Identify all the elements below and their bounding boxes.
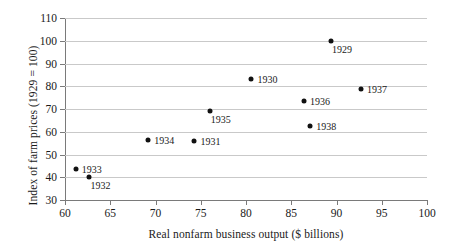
data-point-label-1929: 1929: [332, 44, 352, 55]
x-tick-mark-100: [427, 200, 428, 205]
data-point-1934: [146, 137, 151, 142]
y-tick-label-80: 80: [46, 80, 58, 92]
y-tick-mark-50: [60, 155, 65, 156]
scatter-chart-figure: Index of farm prices (1929 = 100) 304050…: [0, 0, 454, 251]
y-tick-mark-90: [60, 64, 65, 65]
gridline-y-70: [65, 109, 427, 110]
y-tick-mark-80: [60, 86, 65, 87]
y-tick-label-70: 70: [46, 103, 58, 115]
data-point-1932: [87, 175, 92, 180]
x-tick-mark-65: [110, 200, 111, 205]
data-point-1935: [207, 108, 212, 113]
data-point-label-1933: 1933: [82, 163, 102, 174]
x-tick-mark-90: [337, 200, 338, 205]
y-tick-label-90: 90: [46, 58, 58, 70]
data-point-1930: [249, 77, 254, 82]
data-point-1938: [308, 123, 313, 128]
x-tick-mark-60: [65, 200, 66, 205]
data-point-1937: [358, 86, 363, 91]
x-tick-mark-95: [382, 200, 383, 205]
y-tick-mark-70: [60, 109, 65, 110]
x-tick-label-60: 60: [59, 207, 71, 219]
y-tick-label-50: 50: [46, 149, 58, 161]
plot-area: 30405060708090100110 6065707580859095100…: [65, 18, 427, 200]
x-tick-mark-75: [201, 200, 202, 205]
gridline-y-60: [65, 132, 427, 133]
y-tick-label-100: 100: [40, 35, 57, 47]
gridline-y-50: [65, 155, 427, 156]
data-point-1931: [192, 139, 197, 144]
data-point-label-1937: 1937: [367, 83, 387, 94]
y-tick-mark-100: [60, 41, 65, 42]
y-tick-label-60: 60: [46, 126, 58, 138]
y-tick-mark-40: [60, 177, 65, 178]
data-point-label-1932: 1932: [90, 180, 110, 191]
x-tick-label-100: 100: [418, 207, 435, 219]
gridline-y-40: [65, 177, 427, 178]
data-point-label-1931: 1931: [200, 136, 220, 147]
x-tick-label-70: 70: [150, 207, 162, 219]
data-point-label-1938: 1938: [316, 120, 336, 131]
y-tick-mark-110: [60, 18, 65, 19]
x-tick-mark-70: [156, 200, 157, 205]
x-tick-label-80: 80: [240, 207, 252, 219]
x-tick-label-85: 85: [286, 207, 298, 219]
data-point-label-1930: 1930: [257, 74, 277, 85]
gridline-y-100: [65, 41, 427, 42]
y-tick-mark-60: [60, 132, 65, 133]
x-tick-label-65: 65: [105, 207, 117, 219]
data-point-label-1935: 1935: [211, 114, 231, 125]
data-point-1933: [73, 166, 78, 171]
data-point-1929: [329, 38, 334, 43]
x-tick-mark-80: [246, 200, 247, 205]
x-tick-label-90: 90: [331, 207, 343, 219]
y-tick-label-40: 40: [46, 171, 58, 183]
y-tick-label-110: 110: [40, 12, 57, 24]
x-tick-label-95: 95: [376, 207, 388, 219]
gridline-y-110: [65, 18, 427, 19]
x-tick-label-75: 75: [195, 207, 207, 219]
x-tick-mark-85: [291, 200, 292, 205]
data-point-label-1934: 1934: [154, 134, 174, 145]
x-axis-title: Real nonfarm business output ($ billions…: [65, 228, 427, 240]
data-point-label-1936: 1936: [310, 96, 330, 107]
data-point-1936: [301, 99, 306, 104]
gridline-y-90: [65, 64, 427, 65]
y-tick-label-30: 30: [46, 194, 58, 206]
